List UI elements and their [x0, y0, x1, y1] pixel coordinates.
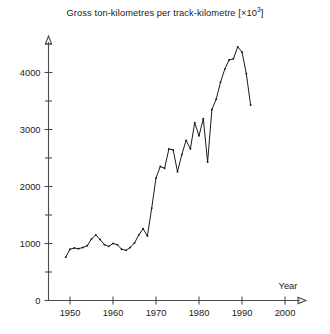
data-point [164, 167, 166, 169]
data-point [189, 148, 191, 150]
data-point [245, 73, 247, 75]
x-axis-tick-labels: 195019601970198019902000 [60, 308, 296, 318]
data-point [69, 248, 71, 250]
chart-container: Gross ton-kilometres per track-kilometre… [0, 0, 330, 334]
data-point [232, 58, 234, 60]
y-tick-label: 1000 [20, 239, 41, 249]
data-point [177, 171, 179, 173]
data-point [181, 154, 183, 156]
data-point [155, 177, 157, 179]
data-point [220, 81, 222, 83]
x-tick-label: 1970 [146, 308, 167, 318]
data-point [73, 247, 75, 249]
x-tick-label: 1980 [189, 308, 210, 318]
y-tick-label: 2000 [20, 182, 41, 192]
data-point [211, 109, 213, 111]
x-tick-label: 1960 [103, 308, 124, 318]
data-point [78, 248, 80, 250]
data-point [237, 46, 239, 48]
y-axis-tick-labels: 01000200030004000 [20, 68, 41, 306]
data-point [151, 207, 153, 209]
data-point [159, 166, 161, 168]
data-point [103, 244, 105, 246]
data-point [99, 239, 101, 241]
data-point [65, 256, 67, 258]
data-point [142, 228, 144, 230]
data-point [112, 243, 114, 245]
data-point [138, 234, 140, 236]
data-point [185, 139, 187, 141]
data-point [146, 235, 148, 237]
data-point [172, 149, 174, 151]
data-point [241, 51, 243, 53]
data-point [129, 247, 131, 249]
x-axis-title: Year [279, 281, 298, 291]
y-tick-label: 4000 [20, 68, 41, 78]
x-tick-label: 2000 [275, 308, 296, 318]
data-point [202, 118, 204, 120]
data-point [121, 248, 123, 250]
data-point [198, 135, 200, 137]
data-point [215, 98, 217, 100]
data-point [207, 161, 209, 163]
chart-axes [45, 36, 306, 304]
data-point [134, 242, 136, 244]
data-point [86, 245, 88, 247]
y-tick-label: 3000 [20, 125, 41, 135]
data-point [125, 249, 127, 251]
data-point [91, 238, 93, 240]
chart-plot-area: 01000200030004000 1950196019701980199020… [0, 0, 330, 334]
data-point [228, 59, 230, 61]
data-point [82, 247, 84, 249]
x-tick-label: 1990 [232, 308, 253, 318]
data-point [95, 234, 97, 236]
data-point [224, 68, 226, 70]
data-series-line [66, 47, 251, 257]
data-point [116, 244, 118, 246]
data-point [168, 148, 170, 150]
y-tick-label: 0 [35, 296, 40, 306]
data-point [250, 104, 252, 106]
data-point [194, 122, 196, 124]
data-series-markers [65, 46, 252, 258]
x-tick-label: 1950 [60, 308, 81, 318]
data-point [108, 245, 110, 247]
